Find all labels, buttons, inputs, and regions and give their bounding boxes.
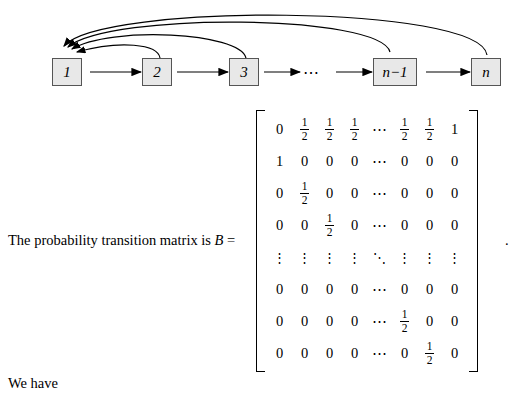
matrix-cell-1-6: 12 xyxy=(392,113,417,145)
matrix-cell-4-5: ⋯ xyxy=(367,209,392,241)
matrix-cell-1-5: ⋯ xyxy=(367,113,392,145)
matrix-cell-1-7: 12 xyxy=(417,113,442,145)
matrix-cell-3-2: 12 xyxy=(292,177,317,209)
chain-node-2: 2 xyxy=(142,58,172,86)
matrix-cell-6-1: 0 xyxy=(267,273,292,305)
matrix-cell-2-5: ⋯ xyxy=(367,145,392,177)
matrix-caption: The probability transition matrix is B = xyxy=(8,232,235,249)
fraction: 12 xyxy=(400,116,410,142)
matrix-cell-7-4: 0 xyxy=(342,305,367,337)
fraction: 12 xyxy=(325,212,335,238)
matrix-cell-8-7: 12 xyxy=(417,337,442,369)
chain-node-n: n xyxy=(471,58,501,86)
matrix-cell-7-1: 0 xyxy=(267,305,292,337)
matrix-right-bracket xyxy=(469,110,478,372)
markov-chain-diagram: 1 2 3 ⋯ n−1 n xyxy=(0,0,522,100)
matrix-cell-8-1: 0 xyxy=(267,337,292,369)
fraction: 12 xyxy=(425,340,435,366)
matrix-cell-6-8: 0 xyxy=(442,273,467,305)
we-have-text: We have xyxy=(8,375,58,392)
matrix-cell-6-4: 0 xyxy=(342,273,367,305)
matrix-cell-3-7: 0 xyxy=(417,177,442,209)
fraction-denominator: 2 xyxy=(425,129,435,142)
matrix-cell-7-8: 0 xyxy=(442,305,467,337)
matrix-cell-3-1: 0 xyxy=(267,177,292,209)
trailing-period: . xyxy=(505,232,509,249)
fraction-denominator: 2 xyxy=(300,193,310,206)
transition-matrix: 0121212⋯121211000⋯00001200⋯00000120⋯000⋮… xyxy=(256,110,478,372)
matrix-cell-8-6: 0 xyxy=(392,337,417,369)
matrix-cell-1-8: 1 xyxy=(442,113,467,145)
matrix-cell-2-7: 0 xyxy=(417,145,442,177)
matrix-cell-4-6: 0 xyxy=(392,209,417,241)
matrix-cell-2-2: 0 xyxy=(292,145,317,177)
matrix-cell-3-4: 0 xyxy=(342,177,367,209)
matrix-cell-2-3: 0 xyxy=(317,145,342,177)
fraction: 12 xyxy=(300,116,310,142)
matrix-cell-1-3: 12 xyxy=(317,113,342,145)
matrix-cell-6-7: 0 xyxy=(417,273,442,305)
matrix-cell-8-4: 0 xyxy=(342,337,367,369)
matrix-cell-1-1: 0 xyxy=(267,113,292,145)
matrix-cell-7-7: 0 xyxy=(417,305,442,337)
matrix-cell-2-6: 0 xyxy=(392,145,417,177)
fraction-numerator: 1 xyxy=(325,116,335,128)
matrix-cell-2-8: 0 xyxy=(442,145,467,177)
matrix-left-bracket xyxy=(256,110,265,372)
fraction-denominator: 2 xyxy=(325,129,335,142)
matrix-cell-4-1: 0 xyxy=(267,209,292,241)
fraction-denominator: 2 xyxy=(425,353,435,366)
matrix-cell-7-2: 0 xyxy=(292,305,317,337)
matrix-cell-3-5: ⋯ xyxy=(367,177,392,209)
matrix-equals-sign: = xyxy=(227,232,235,248)
matrix-cell-5-3: ⋮ xyxy=(317,241,342,273)
matrix-cell-4-4: 0 xyxy=(342,209,367,241)
chain-ellipsis: ⋯ xyxy=(303,63,321,82)
matrix-cell-7-5: ⋯ xyxy=(367,305,392,337)
chain-node-1: 1 xyxy=(52,58,82,86)
chain-node-n-minus-1: n−1 xyxy=(373,58,417,86)
fraction-numerator: 1 xyxy=(325,212,335,224)
matrix-cell-4-7: 0 xyxy=(417,209,442,241)
fraction: 12 xyxy=(325,116,335,142)
matrix-caption-text: The probability transition matrix is xyxy=(8,232,211,248)
matrix-cell-6-6: 0 xyxy=(392,273,417,305)
matrix-symbol: B xyxy=(215,232,224,248)
matrix-grid: 0121212⋯121211000⋯00001200⋯00000120⋯000⋮… xyxy=(265,110,469,372)
fraction-denominator: 2 xyxy=(400,321,410,334)
matrix-cell-1-2: 12 xyxy=(292,113,317,145)
matrix-cell-7-3: 0 xyxy=(317,305,342,337)
fraction-numerator: 1 xyxy=(350,116,360,128)
fraction: 12 xyxy=(400,308,410,334)
chain-node-2-label: 2 xyxy=(153,64,161,81)
chain-node-3-label: 3 xyxy=(240,64,248,81)
fraction-denominator: 2 xyxy=(325,225,335,238)
matrix-cell-8-3: 0 xyxy=(317,337,342,369)
return-arcs xyxy=(64,15,487,58)
fraction: 12 xyxy=(350,116,360,142)
matrix-cell-6-2: 0 xyxy=(292,273,317,305)
matrix-cell-3-3: 0 xyxy=(317,177,342,209)
fraction-numerator: 1 xyxy=(425,340,435,352)
matrix-cell-2-4: 0 xyxy=(342,145,367,177)
matrix-cell-5-7: ⋮ xyxy=(417,241,442,273)
fraction-numerator: 1 xyxy=(400,116,410,128)
chain-node-1-label: 1 xyxy=(63,64,71,81)
matrix-cell-5-5: ⋱ xyxy=(367,241,392,273)
fraction-denominator: 2 xyxy=(350,129,360,142)
matrix-cell-5-2: ⋮ xyxy=(292,241,317,273)
matrix-cell-6-5: ⋯ xyxy=(367,273,392,305)
matrix-cell-6-3: 0 xyxy=(317,273,342,305)
fraction-denominator: 2 xyxy=(300,129,310,142)
chain-node-3: 3 xyxy=(229,58,259,86)
matrix-cell-2-1: 1 xyxy=(267,145,292,177)
fraction-numerator: 1 xyxy=(300,116,310,128)
chain-node-n-label: n xyxy=(482,64,490,81)
fraction: 12 xyxy=(425,116,435,142)
fraction: 12 xyxy=(300,180,310,206)
matrix-cell-4-3: 12 xyxy=(317,209,342,241)
matrix-cell-5-4: ⋮ xyxy=(342,241,367,273)
matrix-cell-5-1: ⋮ xyxy=(267,241,292,273)
matrix-cell-1-4: 12 xyxy=(342,113,367,145)
matrix-cell-4-8: 0 xyxy=(442,209,467,241)
